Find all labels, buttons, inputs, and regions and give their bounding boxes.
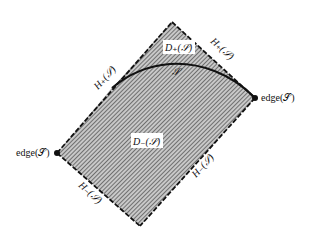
edge-point-right <box>252 95 258 101</box>
edge-label-left: edge(𝒮) <box>16 147 50 159</box>
edge-point-left <box>54 150 60 156</box>
d-plus-label: D₊(𝒮) <box>164 42 193 54</box>
d-minus-label: D₋(𝒮) <box>132 136 161 148</box>
domain-of-dependence-diagram: edge(𝒮) edge(𝒮) H₊(𝒮) H₊(𝒮) H₋(𝒮) H₋(𝒮) … <box>0 0 309 241</box>
edge-label-right: edge(𝒮) <box>261 92 295 104</box>
